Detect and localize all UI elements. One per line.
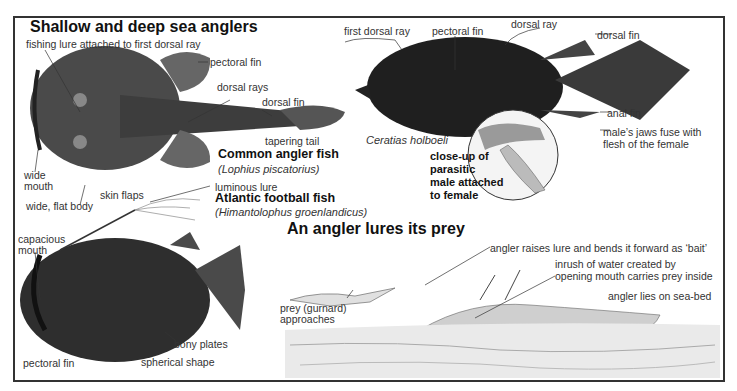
lure-scene-illustration — [285, 270, 720, 378]
football-fish-name: Atlantic football fish — [215, 191, 335, 205]
label-pectoral-fin-football: pectoral fin — [23, 357, 74, 369]
label-pectoral-fin-common: pectoral fin — [210, 56, 261, 68]
closeup-line-3: male attached — [430, 176, 503, 189]
label-dorsal-rays: dorsal rays — [217, 81, 268, 93]
label-flat-body: wide, flat body — [26, 200, 93, 212]
label-skin-flaps: skin flaps — [100, 189, 144, 201]
closeup-line-2: parasitic — [430, 163, 503, 176]
label-wide-mouth-2: mouth — [24, 180, 53, 192]
label-dorsal-ray: dorsal ray — [511, 18, 557, 30]
ceratias-scientific: Ceratias holboeli — [366, 134, 448, 146]
closeup-caption: close-up of parasitic male attached to f… — [430, 150, 503, 202]
common-angler-name: Common angler fish — [218, 147, 339, 161]
label-dorsal-fin-ceratias: dorsal fin — [597, 29, 640, 41]
label-raises-lure: angler raises lure and bends it forward … — [490, 242, 707, 254]
label-capacious-2: mouth — [18, 244, 47, 256]
label-jaws-fuse-1: male’s jaws fuse with — [603, 126, 701, 138]
label-spherical-shape: spherical shape — [141, 356, 215, 368]
football-fish-scientific: (Himantolophus groenlandicus) — [215, 206, 367, 218]
label-jaws-fuse-2: flesh of the female — [603, 138, 689, 150]
label-pectoral-fin-ceratias: pectoral fin — [432, 25, 483, 37]
label-prey-2: approaches — [280, 313, 335, 325]
label-inrush-1: inrush of water created by — [555, 258, 676, 270]
closeup-line-1: close-up of — [430, 150, 503, 163]
label-dorsal-fin-common: dorsal fin — [262, 96, 305, 108]
label-tapering-tail: tapering tail — [265, 135, 319, 147]
closeup-line-4: to female — [430, 189, 503, 202]
label-anal-fin: anal fin — [607, 107, 641, 119]
label-bony-plates: bony plates — [174, 338, 228, 350]
label-first-dorsal-ray: first dorsal ray — [344, 25, 410, 37]
common-angler-scientific: (Lophius piscatorius) — [218, 163, 320, 175]
label-sea-bed: angler lies on sea-bed — [608, 290, 711, 302]
label-inrush-2: opening mouth carries prey inside — [555, 270, 713, 282]
section-title-lures-prey: An angler lures its prey — [287, 220, 465, 238]
label-fishing-lure: fishing lure attached to first dorsal ra… — [26, 38, 201, 50]
section-title-shallow-deep: Shallow and deep sea anglers — [30, 18, 258, 36]
